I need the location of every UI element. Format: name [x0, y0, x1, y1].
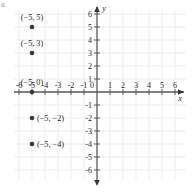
y-tick-label: -3	[85, 127, 92, 136]
x-tick-label: 3	[134, 81, 138, 90]
y-axis-arrow-down	[94, 180, 100, 186]
data-point	[30, 51, 35, 56]
x-tick-label: 2	[121, 81, 125, 90]
data-point-label: (−5, 3)	[21, 39, 44, 48]
y-tick-label: -5	[85, 153, 92, 162]
data-point-label: (−5, 0)	[21, 78, 44, 87]
axis-arrows	[94, 6, 184, 186]
data-point	[30, 25, 35, 30]
figure-container: 0.	[0, 0, 192, 192]
coordinate-plane: -6 -5 -4 -3 -2 -1 0 1 2 3 4 5 6 6 5 4 3 …	[0, 0, 192, 192]
x-tick-label: -2	[68, 81, 75, 90]
x-tick-label: 4	[147, 81, 151, 90]
y-tick-label: -1	[85, 101, 92, 110]
data-point	[30, 90, 35, 95]
y-axis-arrow-up	[94, 6, 100, 12]
y-tick-label: 3	[88, 49, 92, 58]
data-point-label: (−5, 5)	[21, 13, 44, 22]
y-tick-label: 1	[88, 75, 92, 84]
x-tick-label: 1	[108, 81, 112, 90]
data-point-label: (−5, −4)	[37, 140, 64, 149]
data-point	[30, 142, 35, 147]
y-tick-label: 2	[88, 62, 92, 71]
y-tick-label: -6	[85, 166, 92, 175]
x-tick-label: 5	[160, 81, 164, 90]
x-tick-label: 6	[173, 81, 177, 90]
data-point	[30, 116, 35, 121]
y-tick-label: -4	[85, 140, 92, 149]
y-tick-label: 4	[88, 36, 92, 45]
y-tick-label: 6	[88, 10, 92, 19]
x-tick-label: -1	[81, 81, 88, 90]
x-axis-label: x	[177, 94, 182, 103]
y-tick-label: -2	[85, 114, 92, 123]
y-tick-label: 5	[88, 23, 92, 32]
y-axis-label: y	[101, 4, 106, 13]
data-point-label: (−5, −2)	[37, 114, 64, 123]
x-tick-label: -3	[55, 81, 62, 90]
